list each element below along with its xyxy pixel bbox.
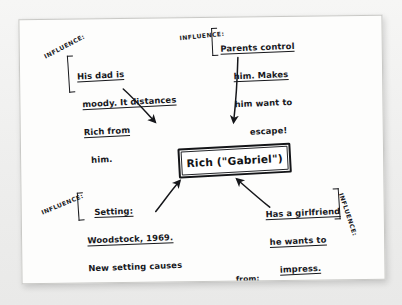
paper-sheet: INFLUENCE: His dad is moody. It distance… xyxy=(18,15,385,284)
influence-label-parents: INFLUENCE: xyxy=(179,31,224,42)
girlfriend-line-1: Has a girlfriend xyxy=(265,206,340,220)
subject-node-label: Rich ("Gabriel") xyxy=(177,143,291,179)
influence-note-parents: Parents control him. Makes him want to e… xyxy=(219,23,298,158)
parents-line-1: Parents control xyxy=(220,41,295,55)
source-citation: from: Are You Experienced? (Sonnenblick) xyxy=(207,246,333,283)
bracket-father xyxy=(67,55,75,92)
setting-line-1: Setting: xyxy=(94,206,133,218)
bracket-parents xyxy=(211,28,218,56)
father-line-1: His dad is xyxy=(77,69,125,82)
setting-line-2: Woodstock, 1969. xyxy=(87,232,173,246)
father-line-2: moody. It distances xyxy=(82,95,176,111)
influence-note-father: His dad is moody. It distances Rich from… xyxy=(76,49,181,185)
parents-line-3: him want to xyxy=(234,97,292,109)
influence-note-setting: Setting: Woodstock, 1969. New setting ca… xyxy=(85,186,185,283)
parents-line-4: escape! xyxy=(250,126,288,137)
screenshot-root: INFLUENCE: His dad is moody. It distance… xyxy=(0,0,402,305)
father-line-3: Rich from xyxy=(84,125,131,138)
parents-line-2: him. Makes xyxy=(233,69,288,82)
setting-line-3: New setting causes xyxy=(88,260,182,273)
father-line-4: him. xyxy=(91,154,113,165)
subject-node[interactable]: Rich ("Gabriel") xyxy=(177,143,291,179)
paper-surface: INFLUENCE: His dad is moody. It distance… xyxy=(19,16,384,283)
